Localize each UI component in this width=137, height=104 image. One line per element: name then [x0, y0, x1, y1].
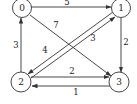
node-3: 3: [109, 72, 129, 92]
edge-weight-1-3: 2: [123, 37, 128, 47]
node-2: 2: [11, 72, 31, 92]
graph-diagram: 5 7 2 3 4 3 2 1 0 1 2: [0, 0, 137, 104]
edge-weight-2-1: 3: [90, 33, 95, 43]
edge-weight-2-3: 2: [69, 66, 74, 76]
node-2-label: 2: [18, 77, 24, 87]
edge-weight-2-0: 3: [13, 40, 18, 50]
node-3-label: 3: [116, 77, 122, 87]
edge-1-to-2: [28, 12, 113, 74]
edge-weight-1-2: 4: [42, 45, 47, 55]
edge-weight-0-1: 5: [64, 0, 69, 7]
edge-weight-3-2: 1: [73, 87, 78, 97]
node-0-label: 0: [19, 3, 25, 13]
edge-weight-0-3: 7: [53, 20, 58, 30]
node-0: 0: [13, 0, 32, 18]
node-1: 1: [112, 0, 131, 18]
node-1-label: 1: [118, 3, 124, 13]
